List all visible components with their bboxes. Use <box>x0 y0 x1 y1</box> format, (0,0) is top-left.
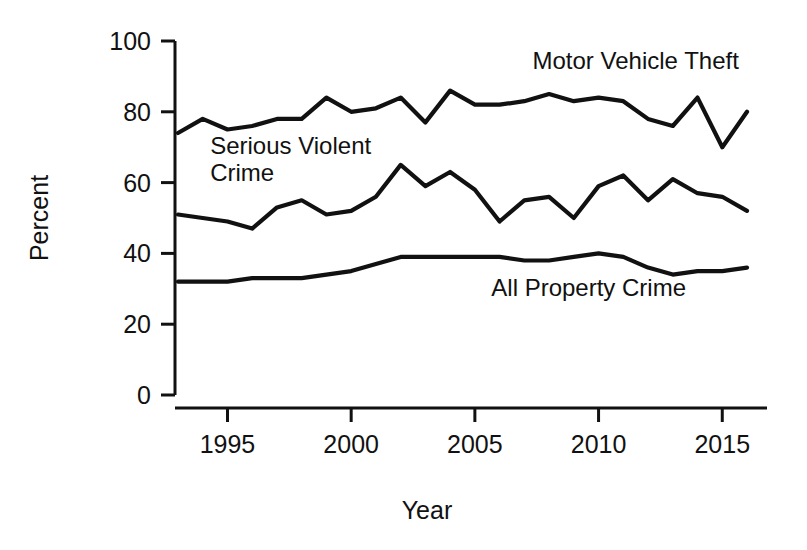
x-tick-label: 2005 <box>447 430 503 458</box>
y-tick-label: 20 <box>123 310 151 338</box>
y-tick-label: 40 <box>123 239 151 267</box>
series-label-serious-violent-crime-line2: Crime <box>210 159 274 186</box>
x-tick-label: 2000 <box>323 430 379 458</box>
x-tick-label: 1995 <box>200 430 256 458</box>
series-label-motor-vehicle-theft: Motor Vehicle Theft <box>533 47 740 74</box>
series-label-serious-violent-crime-line1: Serious Violent <box>210 132 371 159</box>
y-tick-label: 80 <box>123 98 151 126</box>
y-tick-label: 0 <box>137 381 151 409</box>
x-tick-label: 2015 <box>694 430 750 458</box>
x-axis-title: Year <box>402 496 453 524</box>
line-chart: 020406080100 19952000200520102015 Motor … <box>0 0 807 550</box>
y-axis-ticks: 020406080100 <box>109 27 175 409</box>
y-tick-label: 100 <box>109 27 151 55</box>
chart-container: 020406080100 19952000200520102015 Motor … <box>0 0 807 550</box>
x-tick-label: 2010 <box>571 430 627 458</box>
x-axis-ticks: 19952000200520102015 <box>200 408 750 458</box>
series-label-all-property-crime: All Property Crime <box>491 274 686 301</box>
y-tick-label: 60 <box>123 169 151 197</box>
y-axis-title: Percent <box>25 175 53 261</box>
